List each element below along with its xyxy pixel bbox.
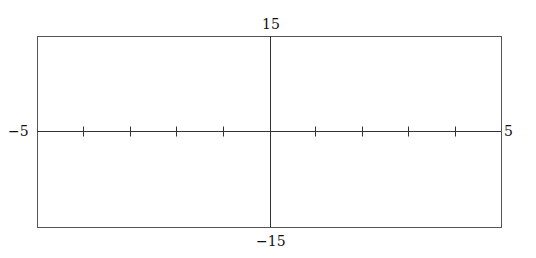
y-max-label: 15: [262, 17, 280, 31]
plot-canvas: [0, 0, 536, 258]
y-min-label: −15: [256, 234, 286, 248]
x-min-label: −5: [8, 124, 29, 138]
x-max-label: 5: [504, 124, 513, 138]
